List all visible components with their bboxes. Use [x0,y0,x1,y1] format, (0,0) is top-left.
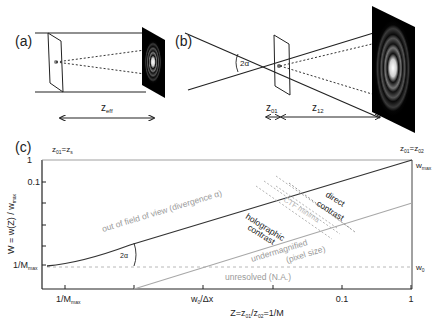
angle-arc-c [134,243,136,266]
sample-plane-b [274,35,290,95]
wmax-label: wmax [415,161,432,171]
y-axis-label: W = w(Z) / wmax [6,193,17,254]
ray-upper [56,50,145,62]
xtick-0.1: 0.1 [336,294,349,304]
region-unresolved: unresolved (N.A.) [225,272,291,282]
panel-b: (b) 2α z01 z12 [175,6,415,133]
panel-c-label: (c) [15,139,31,155]
hologram-pattern-a [144,40,162,84]
z01-label: z01 [266,102,278,114]
angle-label-b: 2α [240,59,249,68]
cone-line-2 [188,31,380,90]
region-out-of-fov: out of field of view (divergence α) [101,188,224,234]
xtick-1-over-mmax: 1/Mmax [56,294,81,305]
ytick-1-over-mmax: 1/Mmax [13,260,38,271]
angle-arc-b [236,54,238,72]
angle-label-c: 2α [120,252,128,259]
figure: (a) zeff (b) 2α z01 [0,0,444,329]
ytick-0.1: 0.1 [27,177,40,187]
label-z01-z02: z01=z02 [400,144,424,154]
ytick-1: 1 [27,155,32,165]
hologram-pattern-b [374,20,412,116]
panel-a: (a) zeff [15,27,165,118]
z12-label: z12 [312,102,324,114]
cone-line-1 [185,33,380,118]
region-ctf-minima: CTF minima [282,195,322,225]
zeff-label: zeff [101,102,113,114]
ray-lower [56,62,145,74]
xtick-1: 1 [408,294,413,304]
label-z01-zs: z01=zs [52,145,73,155]
x-axis-label: Z=z01/z02=1/M [230,308,284,319]
panel-c: (c) z01=zs z01=z02 1 0.1 1/Mma [6,139,432,319]
panel-a-label: (a) [15,33,32,49]
xtick-w0-dx: w0/Δx [190,294,214,305]
field-of-view-curve [47,160,412,266]
w0-label: w0 [415,263,425,273]
diagram-canvas: (a) zeff (b) 2α z01 [0,0,444,329]
